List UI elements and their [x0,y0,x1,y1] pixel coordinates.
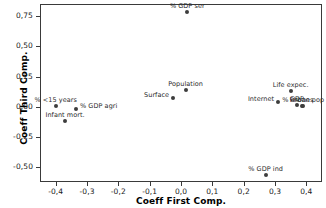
data-point-marker [264,173,268,177]
data-point-label: % GDP agri [80,102,117,110]
y-tick [36,16,40,17]
x-tick-label: -0,2 [103,187,133,196]
x-tick-label: 0,2 [229,187,259,196]
scatter-plot: -0,4-0,3-0,2-0,10,00,10,20,30,40,750,500… [0,0,326,208]
x-tick-label: 0,0 [166,187,196,196]
x-tick-label: -0,3 [72,187,102,196]
data-point-label: Life expec. [273,81,309,89]
plot-frame [40,4,322,182]
x-tick [56,182,57,186]
x-axis-title: Coeff First Comp. [40,196,322,206]
data-point-marker [63,119,67,123]
data-point-marker [184,88,188,92]
x-tick [118,182,119,186]
x-tick-label: 0,3 [260,187,290,196]
data-point-label: Internet [248,95,274,103]
y-tick [36,107,40,108]
x-tick [244,182,245,186]
x-tick [275,182,276,186]
y-axis-title: Coeff Third Comp. [19,38,29,158]
data-point-marker [289,89,293,93]
data-point-marker [54,104,58,108]
x-tick-label: 0,4 [291,187,321,196]
data-point-label: % <15 years [34,96,76,104]
x-tick [212,182,213,186]
data-point-label: Surface [144,91,169,99]
x-tick-label: 0,1 [197,187,227,196]
x-tick [150,182,151,186]
y-tick-label: 0,75 [0,11,33,20]
y-tick [36,77,40,78]
y-tick-label: -0,50 [0,162,33,171]
data-point-label: % GDP ser [170,2,205,10]
data-point-label: % urban pop [282,96,324,104]
x-tick-label: -0,1 [135,187,165,196]
y-tick [36,137,40,138]
x-tick-label: -0,4 [41,187,71,196]
data-point-label: Population [168,80,203,88]
y-tick [36,46,40,47]
x-tick [87,182,88,186]
data-point-label: Infant mort. [45,111,84,119]
x-tick [306,182,307,186]
y-tick [36,167,40,168]
data-point-label: % GDP ind [248,165,283,173]
x-tick [181,182,182,186]
